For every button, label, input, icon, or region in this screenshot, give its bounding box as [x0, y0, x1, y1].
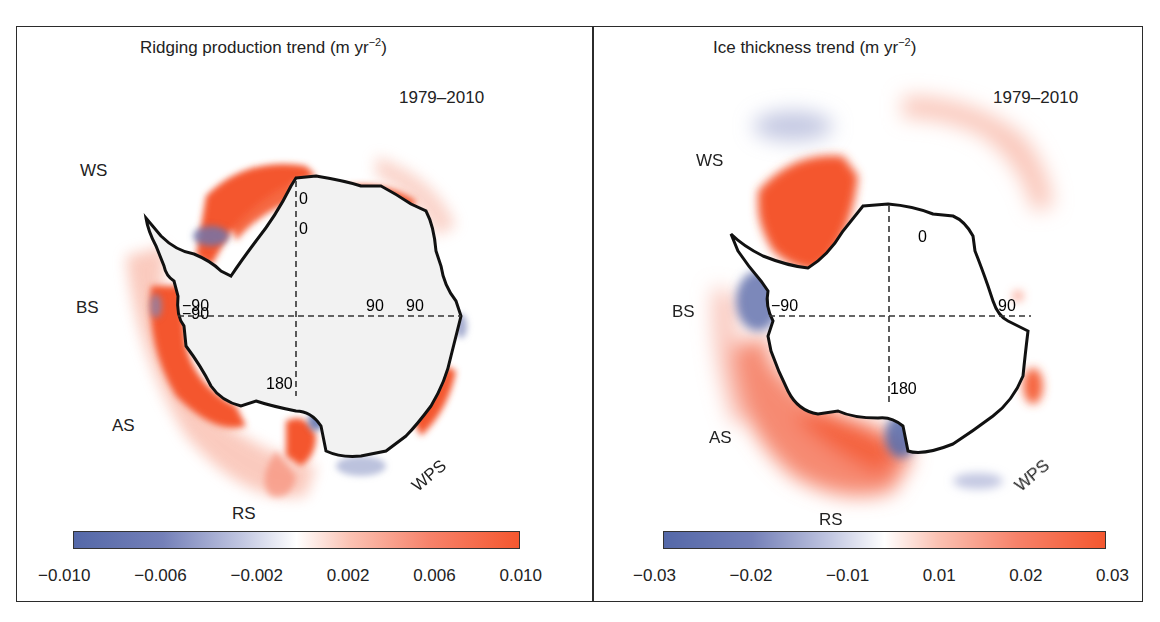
- antarctica-map-thickness: 0 −90 90 180: [593, 26, 1143, 526]
- grid-label: 90: [998, 297, 1016, 314]
- grid-label: 0: [918, 228, 927, 245]
- grid-label: −90: [182, 305, 209, 322]
- colorbar-ridging: [73, 531, 520, 549]
- colorbar-tick: −0.02: [730, 566, 773, 586]
- antarctica-map-ridging: 0 0 −90 −90 90 90 180: [16, 26, 592, 526]
- grid-label: 180: [266, 375, 293, 392]
- panel-ice-thickness: Ice thickness trend (m yr−2) 1979–2010: [593, 26, 1143, 602]
- colorbar-tick: 0.010: [499, 566, 542, 586]
- grid-label: −90: [771, 297, 798, 314]
- colorbar-tick: 0.002: [327, 566, 370, 586]
- colorbar-tick: −0.010: [38, 566, 90, 586]
- colorbar-tick: −0.002: [231, 566, 283, 586]
- colorbar-ticks: −0.010 −0.006 −0.002 0.002 0.006 0.010: [38, 566, 542, 586]
- colorbar-ticks: −0.03 −0.02 −0.01 0.01 0.02 0.03: [633, 566, 1129, 586]
- region-label-as: AS: [709, 428, 732, 448]
- region-label-rs: RS: [819, 510, 843, 530]
- region-label-bs: BS: [76, 298, 99, 318]
- grid-label: 180: [890, 380, 917, 397]
- region-label-bs: BS: [672, 302, 695, 322]
- grid-label: 0: [299, 220, 308, 237]
- region-label-ws: WS: [80, 161, 107, 181]
- region-label-ws: WS: [696, 151, 723, 171]
- colorbar-tick: −0.01: [826, 566, 869, 586]
- colorbar-thickness: [663, 531, 1106, 549]
- colorbar-tick: 0.01: [923, 566, 956, 586]
- colorbar-tick: 0.006: [413, 566, 456, 586]
- grid-label: 90: [406, 297, 424, 314]
- colorbar-tick: 0.03: [1096, 566, 1129, 586]
- colorbar-tick: −0.006: [134, 566, 186, 586]
- colorbar-tick: 0.02: [1009, 566, 1042, 586]
- panel-ridging-production: Ridging production trend (m yr−2) 1979–2…: [16, 26, 592, 602]
- region-label-as: AS: [112, 416, 135, 436]
- grid-label: 0: [299, 190, 308, 207]
- region-label-rs: RS: [232, 504, 256, 524]
- grid-label: 90: [366, 297, 384, 314]
- colorbar-tick: −0.03: [633, 566, 676, 586]
